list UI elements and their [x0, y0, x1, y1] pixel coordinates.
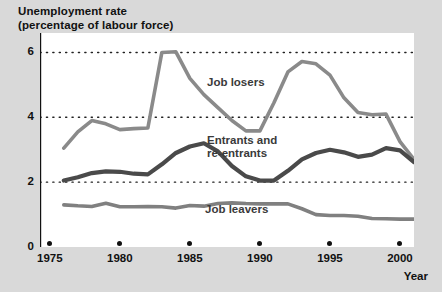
- series-label-entrants-line-2: re-entrants: [207, 147, 267, 159]
- y-tick-label-6: 6: [12, 45, 34, 57]
- x-tick-label-1975: 1975: [20, 252, 80, 264]
- x-tick-label-1985: 1985: [160, 252, 220, 264]
- y-tick-label-4: 4: [12, 110, 34, 122]
- chart-title-line-1: Unemployment rate: [18, 5, 318, 19]
- series-label-job-leavers: Job leavers: [205, 203, 268, 216]
- x-tick-label-1995: 1995: [300, 252, 360, 264]
- chart-title-line-2: (percentage of labour force): [18, 19, 318, 33]
- series-label-job-losers: Job losers: [207, 76, 265, 89]
- chart-figure: Unemployment rate (percentage of labour …: [0, 0, 442, 292]
- series-label-entrants-and-re-entrants: Entrants and re-entrants: [207, 134, 277, 160]
- y-tick-label-0: 0: [12, 240, 34, 252]
- x-tick-label-2000: 2000: [370, 252, 430, 264]
- x-axis-title: Year: [404, 270, 428, 282]
- x-tick-label-1990: 1990: [230, 252, 290, 264]
- series-label-entrants-line-1: Entrants and: [207, 134, 277, 146]
- y-tick-label-2: 2: [12, 175, 34, 187]
- x-tick-label-1980: 1980: [90, 252, 150, 264]
- chart-title: Unemployment rate (percentage of labour …: [18, 5, 318, 32]
